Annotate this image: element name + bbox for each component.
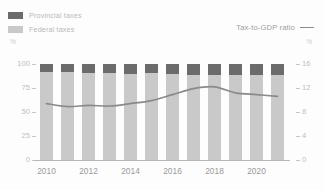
- legend-label-provincial: Provincial taxes: [29, 11, 82, 20]
- ratio-line-path: [47, 87, 278, 107]
- left-axis-ticks: 1007550250: [4, 0, 30, 190]
- x-axis-tick-label-2020: 2020: [247, 166, 266, 176]
- right-axis-tick-label: 0: [302, 155, 306, 164]
- left-axis-tick-label: 50: [22, 107, 30, 116]
- right-axis-tick-mark: [296, 112, 300, 113]
- tax-composition-chart: Provincial taxes Federal taxes Tax-to-GD…: [0, 0, 324, 190]
- x-axis-tick-label-2014: 2014: [121, 166, 140, 176]
- right-axis-tick-mark: [296, 136, 300, 137]
- legend-label-ratio: Tax-to-GDP ratio: [236, 23, 295, 32]
- x-axis-line: [34, 160, 290, 161]
- right-axis-tick-label: 8: [302, 107, 306, 116]
- right-axis-tick-mark: [296, 88, 300, 89]
- right-axis-tick-mark: [296, 64, 300, 65]
- ratio-line-series: [36, 64, 288, 160]
- x-axis-tick-label-2018: 2018: [205, 166, 224, 176]
- left-axis-tick-label: 25: [22, 131, 30, 140]
- x-axis-tick-label-2010: 2010: [37, 166, 56, 176]
- left-axis-tick-label: 100: [17, 59, 30, 68]
- right-axis-tick-mark: [296, 160, 300, 161]
- plot-area: [36, 64, 288, 160]
- legend-label-federal: Federal taxes: [29, 25, 75, 34]
- right-axis-tick-label: 12: [302, 83, 310, 92]
- right-axis-tick-label: 4: [302, 131, 306, 140]
- x-axis-tick-label-2012: 2012: [79, 166, 98, 176]
- x-axis-tick-label-2016: 2016: [163, 166, 182, 176]
- right-axis-ticks: 1612840: [296, 0, 322, 190]
- right-axis-tick-label: 16: [302, 59, 310, 68]
- left-axis-tick-label: 75: [22, 83, 30, 92]
- left-axis-tick-label: 0: [26, 155, 30, 164]
